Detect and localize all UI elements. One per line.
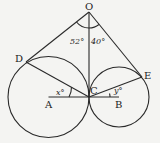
angle-label-52: 52° — [70, 37, 84, 46]
angle-label-y: y° — [113, 86, 123, 95]
angle-arc-doc — [77, 22, 90, 28]
angle-arc-y — [110, 94, 111, 98]
label-o: O — [85, 1, 93, 12]
label-a: A — [44, 99, 53, 110]
label-d: D — [15, 53, 23, 64]
label-c: C — [90, 85, 98, 96]
label-e: E — [144, 70, 151, 81]
geometry-diagram: O D E A B C 52° 40° x° y° — [0, 0, 160, 143]
angle-label-40: 40° — [90, 37, 105, 46]
angle-label-x: x° — [56, 88, 65, 97]
angle-arc-x — [69, 87, 72, 97]
angle-arc-coe — [89, 25, 99, 29]
label-b: B — [115, 99, 122, 110]
